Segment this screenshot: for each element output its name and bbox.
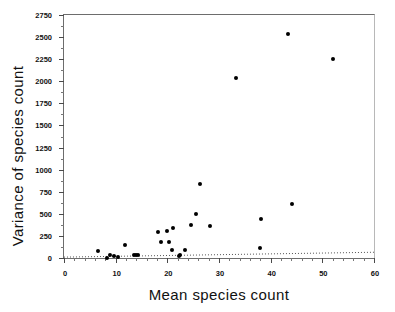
y-axis-tick: 1000	[59, 170, 64, 171]
y-axis-minor-tick	[61, 247, 64, 248]
x-axis-minor-tick	[302, 258, 303, 261]
x-axis-minor-tick	[126, 258, 127, 261]
x-axis-minor-tick	[198, 258, 199, 261]
y-axis-minor-tick	[61, 26, 64, 27]
x-axis-minor-tick	[74, 258, 75, 261]
data-point	[136, 253, 140, 257]
x-axis-tick: 60	[374, 258, 375, 263]
y-axis-minor-tick	[61, 137, 64, 138]
x-axis-minor-tick	[147, 258, 148, 261]
x-axis-minor-tick	[343, 258, 344, 261]
data-point	[96, 249, 100, 253]
y-axis-title: Variance of species count	[0, 0, 34, 312]
y-axis-minor-tick	[61, 181, 64, 182]
data-point	[286, 32, 290, 36]
x-axis-minor-tick	[95, 258, 96, 261]
y-axis-tick: 2750	[59, 15, 64, 16]
x-axis-minor-tick	[312, 258, 313, 261]
y-axis-tick-label: 1750	[35, 101, 52, 109]
data-point	[165, 229, 169, 233]
x-axis-tick: 20	[167, 258, 168, 263]
y-axis-tick: 1250	[59, 148, 64, 149]
y-axis-minor-tick	[61, 114, 64, 115]
y-axis-tick: 2000	[59, 81, 64, 82]
y-axis-minor-tick	[61, 203, 64, 204]
data-point	[189, 223, 193, 227]
x-axis-tick-label: 20	[164, 270, 172, 278]
x-axis-minor-tick	[85, 258, 86, 261]
y-axis-tick: 2500	[59, 37, 64, 38]
scatter-plot-figure: Variance of species count 02505007501000…	[0, 0, 395, 312]
x-axis-minor-tick	[353, 258, 354, 261]
data-point	[234, 76, 238, 80]
x-axis-minor-tick	[260, 258, 261, 261]
data-point	[183, 248, 187, 252]
x-axis-minor-tick	[281, 258, 282, 261]
y-axis-minor-tick	[61, 48, 64, 49]
data-point	[156, 230, 160, 234]
x-axis-tick: 0	[64, 258, 65, 263]
data-point	[123, 243, 127, 247]
x-axis-tick-label: 60	[371, 270, 379, 278]
y-axis-tick-label: 2500	[35, 34, 52, 42]
y-axis-tick-label: 1000	[35, 167, 52, 175]
y-axis-tick-label: 1250	[35, 145, 52, 153]
y-axis-tick-label: 2000	[35, 79, 52, 87]
x-axis-minor-tick	[178, 258, 179, 261]
y-axis-tick: 1500	[59, 125, 64, 126]
y-axis-tick-label: 750	[39, 189, 52, 197]
x-axis-minor-tick	[188, 258, 189, 261]
y-axis-tick-label: 2750	[35, 12, 52, 20]
x-axis-tick-label: 40	[267, 270, 275, 278]
y-axis-tick: 750	[59, 192, 64, 193]
x-axis-minor-tick	[250, 258, 251, 261]
x-axis-title: Mean species count	[63, 286, 375, 303]
x-axis-minor-tick	[333, 258, 334, 261]
data-point	[259, 217, 263, 221]
x-axis-tick-label: 50	[319, 270, 327, 278]
y-axis-minor-tick	[61, 92, 64, 93]
y-axis-tick-label: 0	[48, 255, 52, 263]
x-axis-minor-tick	[157, 258, 158, 261]
data-point	[258, 246, 262, 250]
y-axis-tick: 2250	[59, 59, 64, 60]
x-axis-tick: 40	[271, 258, 272, 263]
y-axis-tick-label: 1500	[35, 123, 52, 131]
x-axis-tick: 50	[322, 258, 323, 263]
data-point	[116, 255, 120, 259]
data-point	[290, 202, 294, 206]
x-axis-minor-tick	[209, 258, 210, 261]
data-point	[178, 253, 182, 257]
y-axis-tick: 250	[59, 236, 64, 237]
data-point	[170, 248, 174, 252]
x-axis-minor-tick	[364, 258, 365, 261]
y-axis-tick-label: 500	[39, 211, 52, 219]
x-axis-tick: 30	[219, 258, 220, 263]
trend-line	[64, 15, 374, 258]
x-axis-minor-tick	[229, 258, 230, 261]
x-axis-minor-tick	[136, 258, 137, 261]
y-axis-minor-tick	[61, 70, 64, 71]
data-point	[167, 240, 171, 244]
y-axis-minor-tick	[61, 225, 64, 226]
y-axis-tick-label: 2250	[35, 56, 52, 64]
x-axis-tick-label: 10	[112, 270, 120, 278]
y-axis-minor-tick	[61, 159, 64, 160]
x-axis-tick-label: 30	[216, 270, 224, 278]
data-point	[198, 182, 202, 186]
data-point	[194, 212, 198, 216]
y-axis-tick: 1750	[59, 103, 64, 104]
data-point	[159, 240, 163, 244]
x-axis-minor-tick	[291, 258, 292, 261]
x-axis-minor-tick	[240, 258, 241, 261]
plot-area: 0250500750100012501500175020002250250027…	[63, 14, 375, 259]
data-point	[331, 57, 335, 61]
data-point	[171, 226, 175, 230]
x-axis-tick-label: 0	[63, 270, 67, 278]
data-point	[208, 224, 212, 228]
y-axis-tick-label: 250	[39, 233, 52, 241]
y-axis-tick: 500	[59, 214, 64, 215]
